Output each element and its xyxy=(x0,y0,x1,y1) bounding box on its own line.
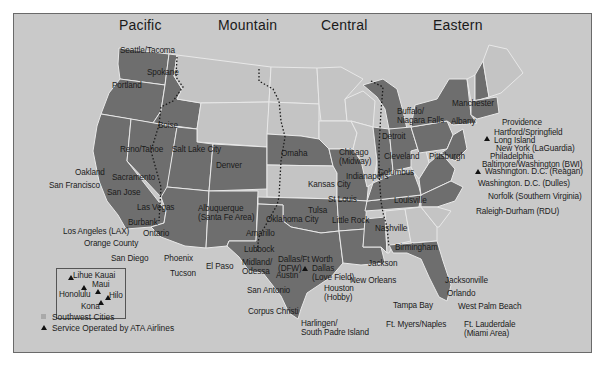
city-honolulu[interactable]: Honolulu xyxy=(59,290,91,299)
city-amarillo[interactable]: Amarillo xyxy=(246,229,275,238)
zone-label-mountain: Mountain xyxy=(218,17,277,33)
ata-service-icon-maui xyxy=(95,289,101,294)
city-albuquerque-line2: (Santa Fe Area) xyxy=(198,213,254,222)
city-las-vegas[interactable]: Las Vegas xyxy=(137,203,174,212)
ata-service-icon-dfw xyxy=(302,266,308,271)
city-salt-lake-city[interactable]: Salt Lake City xyxy=(172,145,221,154)
city-washington-reagan[interactable]: Washington. D.C. (Reagan) xyxy=(485,167,583,176)
city-manchester[interactable]: Manchester xyxy=(452,99,494,108)
city-san-francisco[interactable]: San Francisco xyxy=(49,181,100,190)
city-ft-myers-naples[interactable]: Ft. Myers/Naples xyxy=(386,320,446,329)
city-buffalo[interactable]: Buffalo/Niagara Falls xyxy=(397,107,444,125)
city-louisville[interactable]: Louisville xyxy=(394,196,427,205)
city-harlingen-line2: South Padre Island xyxy=(301,328,369,337)
route-map: Pacific Mountain Central Eastern Seattle… xyxy=(13,13,592,353)
city-buffalo-line1: Buffalo/ xyxy=(397,107,424,116)
city-harlingen-line1: Harlingen/ xyxy=(301,319,337,328)
city-raleigh-durham[interactable]: Raleigh-Durham (RDU) xyxy=(476,207,559,216)
city-cleveland[interactable]: Cleveland xyxy=(384,152,420,161)
city-chicago-line2: (Midway) xyxy=(339,157,371,166)
city-birmingham[interactable]: Birmingham xyxy=(395,243,438,252)
city-harlingen[interactable]: Harlingen/South Padre Island xyxy=(301,319,369,337)
state-south-dakota xyxy=(267,102,319,139)
city-san-antonio[interactable]: San Antonio xyxy=(247,286,290,295)
city-kansas-city[interactable]: Kansas City xyxy=(308,180,351,189)
city-lax[interactable]: Los Angeles (LAX) xyxy=(63,227,129,236)
city-albuquerque-line1: Albuquerque xyxy=(198,204,243,213)
city-new-orleans[interactable]: New Orleans xyxy=(350,276,396,285)
city-corpus-christi[interactable]: Corpus Christi xyxy=(248,307,298,316)
city-st-louis[interactable]: St Louis xyxy=(328,195,357,204)
city-houston-line2: (Hobby) xyxy=(324,293,352,302)
state-north-dakota xyxy=(269,67,319,104)
legend-ata-service-label: Service Operated by ATA Airlines xyxy=(52,323,174,333)
city-chicago[interactable]: Chicago(Midway) xyxy=(339,148,371,166)
city-ftl-line1: Ft. Lauderdale xyxy=(464,320,515,329)
city-jacksonville[interactable]: Jacksonville xyxy=(445,276,488,285)
southwest-city-marker-icon xyxy=(41,314,46,319)
city-oklahoma-city[interactable]: Oklahoma City xyxy=(266,215,318,224)
city-chicago-line1: Chicago xyxy=(339,148,368,157)
city-sacramento[interactable]: Sacramento xyxy=(112,173,155,182)
city-orlando[interactable]: Orlando xyxy=(447,289,475,298)
city-spokane[interactable]: Spokane xyxy=(147,68,179,77)
city-jackson[interactable]: Jackson xyxy=(368,259,397,268)
city-houston[interactable]: Houston(Hobby) xyxy=(324,284,354,302)
city-midland-line1: Midland/ xyxy=(242,258,272,267)
city-reno[interactable]: Reno/Tahoe xyxy=(120,145,163,154)
city-albuquerque[interactable]: Albuquerque(Santa Fe Area) xyxy=(198,204,254,222)
city-maui[interactable]: Maui xyxy=(92,280,109,289)
city-midland[interactable]: Midland/Odessa xyxy=(242,258,272,276)
ata-triangle-icon xyxy=(41,325,47,330)
city-albany[interactable]: Albany xyxy=(451,117,475,126)
city-kona[interactable]: Kona xyxy=(81,302,100,311)
city-west-palm-beach[interactable]: West Palm Beach xyxy=(458,302,521,311)
zone-label-eastern: Eastern xyxy=(433,17,483,33)
ata-service-icon-long-island xyxy=(484,136,490,141)
city-washington-dulles[interactable]: Washington. D.C. (Dulles) xyxy=(478,179,570,188)
city-ftl-line2: (Miami Area) xyxy=(464,329,509,338)
city-san-jose[interactable]: San Jose xyxy=(107,188,140,197)
city-orange-county[interactable]: Orange County xyxy=(84,239,138,248)
city-omaha[interactable]: Omaha xyxy=(281,149,307,158)
city-seattle[interactable]: Seattle/Tacoma xyxy=(120,46,175,55)
state-maine xyxy=(483,45,523,97)
city-phoenix[interactable]: Phoenix xyxy=(164,254,193,263)
city-dallas-love-field[interactable]: Dallas(Love Field) xyxy=(312,264,354,282)
city-dfw-line2: (DFW) xyxy=(278,264,302,273)
city-tampa-bay[interactable]: Tampa Bay xyxy=(393,301,433,310)
city-ontario[interactable]: Ontario xyxy=(143,229,169,238)
city-tulsa[interactable]: Tulsa xyxy=(308,206,327,215)
city-san-diego[interactable]: San Diego xyxy=(111,254,148,263)
city-el-paso[interactable]: El Paso xyxy=(206,262,234,271)
ata-service-icon-reagan xyxy=(475,169,481,174)
map-legend: Southwest Cities Service Operated by ATA… xyxy=(41,311,174,333)
city-midland-line2: Odessa xyxy=(242,267,270,276)
city-little-rock[interactable]: Little Rock xyxy=(332,216,369,225)
city-denver[interactable]: Denver xyxy=(216,161,242,170)
city-buffalo-line2: Niagara Falls xyxy=(397,116,444,125)
city-providence[interactable]: Providence xyxy=(502,118,542,127)
city-boise[interactable]: Boise xyxy=(158,121,178,130)
legend-southwest-cities-label: Southwest Cities xyxy=(52,312,114,322)
state-montana xyxy=(174,55,271,103)
zone-label-pacific: Pacific xyxy=(119,17,162,33)
legend-ata-service: Service Operated by ATA Airlines xyxy=(41,322,174,333)
city-columbus[interactable]: Columbus xyxy=(378,168,414,177)
city-portland[interactable]: Portland xyxy=(112,81,142,90)
city-burbank[interactable]: Burbank xyxy=(128,218,158,227)
zone-label-central: Central xyxy=(321,17,368,33)
city-lihue-kauai[interactable]: Lihue Kauai xyxy=(73,271,115,280)
city-houston-line1: Houston xyxy=(324,284,354,293)
city-pittsburgh[interactable]: Pittsburgh xyxy=(429,152,465,161)
city-hilo[interactable]: Hilo xyxy=(109,291,123,300)
city-detroit[interactable]: Detroit xyxy=(382,132,405,141)
city-norfolk[interactable]: Norfolk (Southern Virginia) xyxy=(488,192,582,201)
city-oakland[interactable]: Oakland xyxy=(75,168,105,177)
city-ft-lauderdale[interactable]: Ft. Lauderdale(Miami Area) xyxy=(464,320,515,338)
city-lubbock[interactable]: Lubbock xyxy=(244,245,274,254)
city-tucson[interactable]: Tucson xyxy=(170,269,196,278)
state-iowa xyxy=(319,121,357,149)
city-nashville[interactable]: Nashville xyxy=(375,224,407,233)
city-lovefield-line2: (Love Field) xyxy=(312,273,354,282)
